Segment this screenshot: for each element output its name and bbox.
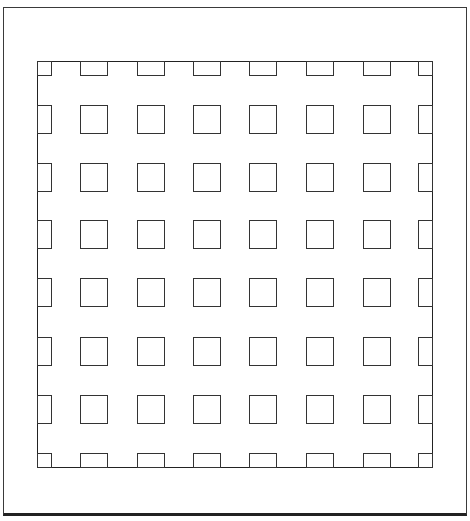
grid-square	[80, 278, 108, 307]
grid-square	[249, 278, 277, 307]
grid-square	[193, 220, 221, 249]
grid-square	[363, 105, 391, 134]
left-edge-opening	[37, 337, 52, 366]
grid-square	[137, 337, 165, 366]
top-edge-opening	[249, 61, 277, 76]
grid-square	[306, 220, 334, 249]
grid-square	[306, 163, 334, 192]
left-edge-opening	[37, 220, 52, 249]
grid-square	[80, 220, 108, 249]
grid-square	[137, 163, 165, 192]
grid-square	[249, 105, 277, 134]
grid-square	[363, 220, 391, 249]
left-edge-opening	[37, 105, 52, 134]
grid-square	[306, 337, 334, 366]
bottom-edge-opening	[137, 453, 165, 468]
grid-square	[249, 220, 277, 249]
top-edge-opening	[137, 61, 165, 76]
right-edge-opening	[418, 220, 433, 249]
bottom-edge-opening	[249, 453, 277, 468]
grid-square	[80, 163, 108, 192]
top-edge-opening	[306, 61, 334, 76]
grid-square	[363, 337, 391, 366]
right-edge-opening	[418, 163, 433, 192]
grid-square	[363, 163, 391, 192]
top-edge-opening	[363, 61, 391, 76]
grid-square	[306, 278, 334, 307]
corner-opening-tr	[418, 61, 433, 76]
grid-square	[80, 337, 108, 366]
grid-square	[193, 337, 221, 366]
grid-square	[249, 163, 277, 192]
grid-square	[137, 278, 165, 307]
right-edge-opening	[418, 278, 433, 307]
grid-square	[306, 105, 334, 134]
corner-opening-br	[418, 453, 433, 468]
left-edge-opening	[37, 395, 52, 424]
grid-square	[137, 395, 165, 424]
grid-square	[193, 105, 221, 134]
right-edge-opening	[418, 105, 433, 134]
bottom-edge-opening	[193, 453, 221, 468]
bottom-edge-opening	[363, 453, 391, 468]
grid-square	[249, 395, 277, 424]
corner-opening-bl	[37, 453, 52, 468]
top-edge-opening	[80, 61, 108, 76]
bottom-edge-opening	[306, 453, 334, 468]
bottom-edge-opening	[80, 453, 108, 468]
left-edge-opening	[37, 163, 52, 192]
grid-square	[80, 105, 108, 134]
grid-square	[193, 395, 221, 424]
corner-opening-tl	[37, 61, 52, 76]
grid-square	[193, 278, 221, 307]
right-edge-opening	[418, 395, 433, 424]
grid-square	[363, 278, 391, 307]
right-edge-opening	[418, 337, 433, 366]
grid-square	[137, 220, 165, 249]
left-edge-opening	[37, 278, 52, 307]
grid-square	[249, 337, 277, 366]
grid-square	[306, 395, 334, 424]
top-edge-opening	[193, 61, 221, 76]
grid-square	[137, 105, 165, 134]
grid-square	[363, 395, 391, 424]
grid-square	[193, 163, 221, 192]
grid-square	[80, 395, 108, 424]
